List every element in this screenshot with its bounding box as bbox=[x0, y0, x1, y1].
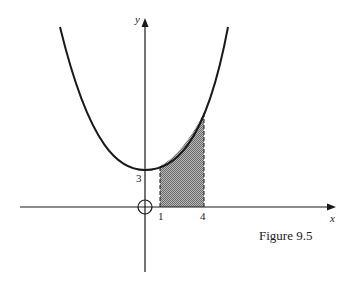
y-intercept-label: 3 bbox=[136, 173, 142, 184]
figure-caption: Figure 9.5 bbox=[259, 228, 312, 244]
x-tick-label-4: 4 bbox=[200, 211, 206, 222]
y-axis-label: y bbox=[135, 14, 140, 25]
x-axis-arrow-icon bbox=[327, 204, 336, 211]
x-axis-label: x bbox=[330, 213, 335, 224]
x-tick-label-1: 1 bbox=[158, 211, 164, 222]
y-axis-arrow-icon bbox=[142, 18, 149, 27]
